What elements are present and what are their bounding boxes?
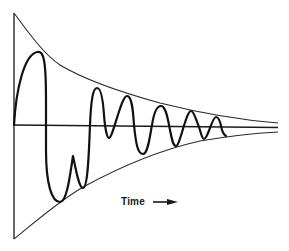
lower-envelope-curve [14, 132, 278, 239]
time-axis [14, 125, 278, 128]
time-label-text: Time [121, 196, 145, 207]
upper-envelope-curve [14, 13, 278, 123]
time-axis-label: Time [121, 196, 179, 207]
arrow-right-icon [153, 198, 179, 206]
damped-oscillation-diagram [0, 0, 289, 251]
